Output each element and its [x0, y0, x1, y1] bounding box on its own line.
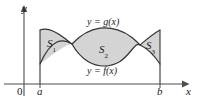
- region-label-s3: S3: [146, 40, 155, 54]
- curve-label-f: y = f(x): [87, 66, 117, 76]
- region-label-s1-sub: 1: [53, 46, 57, 54]
- region-label-s3-base: S: [146, 39, 152, 51]
- curve-label-g: y = g(x): [87, 17, 119, 27]
- region-label-s2: S2: [99, 44, 108, 58]
- region-label-s1: S1: [47, 38, 56, 52]
- area-between-curves-figure: y x 0 a b y = g(x) y = f(x) S1 S2 S3: [0, 0, 197, 102]
- region-label-s2-base: S: [99, 43, 105, 55]
- origin-label: 0: [17, 86, 23, 97]
- region-label-s1-base: S: [47, 37, 53, 49]
- x-tick-label-a: a: [37, 86, 43, 97]
- x-axis-label: x: [186, 86, 191, 97]
- x-tick-label-b: b: [157, 86, 163, 97]
- region-label-s2-sub: 2: [105, 52, 109, 60]
- region-label-s3-sub: 3: [152, 48, 156, 56]
- x-axis-ticks: [40, 84, 160, 88]
- y-axis-label: y: [22, 3, 27, 14]
